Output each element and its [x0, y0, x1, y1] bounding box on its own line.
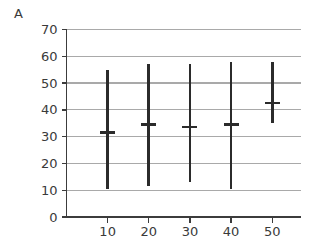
y-tick-label-20: 20 [41, 156, 58, 171]
gridlines-group [67, 30, 302, 191]
y-tick-label-60: 60 [41, 49, 58, 64]
y-tick-label-70: 70 [41, 22, 58, 37]
range-bar [182, 64, 197, 182]
y-tick-label-0: 0 [49, 210, 57, 225]
y-tick-label-30: 30 [41, 129, 58, 144]
y-tick-label-40: 40 [41, 102, 58, 117]
y-axis-ticks-group: 010203040506070 [41, 22, 67, 225]
data-series-group [100, 62, 280, 189]
x-tick-label-40: 40 [223, 224, 240, 239]
chart-figure: A 010203040506070 1020304050 [0, 0, 311, 246]
y-tick-label-10: 10 [41, 183, 58, 198]
range-bar [100, 70, 115, 189]
range-bar [265, 62, 280, 124]
range-chart-plot: 010203040506070 1020304050 [0, 0, 311, 246]
x-tick-label-20: 20 [141, 224, 158, 239]
range-bar [224, 62, 239, 189]
x-tick-label-50: 50 [264, 224, 281, 239]
x-axis-ticks-group: 1020304050 [99, 217, 280, 239]
x-tick-label-30: 30 [182, 224, 199, 239]
y-tick-label-50: 50 [41, 76, 58, 91]
x-tick-label-10: 10 [99, 224, 116, 239]
